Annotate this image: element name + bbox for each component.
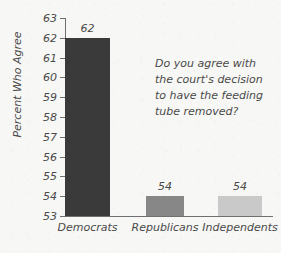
bar-value-republicans: 54 (135, 180, 195, 193)
y-tick-label: 62 (21, 33, 57, 44)
category-label-democrats: Democrats (45, 221, 131, 234)
annotation-line-4: tube removed? (155, 104, 279, 120)
bar-value-democrats: 62 (58, 22, 118, 35)
y-tick-label: 59 (21, 92, 57, 103)
annotation-line-1: Do you agree with (155, 56, 279, 72)
survey-question-annotation: Do you agree withthe court's decisionto … (155, 56, 279, 120)
y-tick-label: 57 (21, 132, 57, 143)
x-axis-line (65, 216, 273, 217)
y-tick-label: 60 (21, 72, 57, 83)
bar-republicans[interactable] (146, 196, 184, 216)
y-tick-label: 63 (21, 13, 57, 24)
bar-democrats[interactable] (65, 38, 110, 216)
bar-independents[interactable] (218, 196, 262, 216)
y-tick-mark (60, 216, 65, 217)
annotation-line-3: to have the feeding (155, 88, 279, 104)
y-tick-label: 55 (21, 171, 57, 182)
category-label-republicans: Republicans (122, 221, 208, 234)
bar-chart: Percent Who Agree 5354555657585960616263… (0, 0, 281, 253)
y-tick-label: 61 (21, 53, 57, 64)
y-tick-label: 58 (21, 112, 57, 123)
y-tick-label: 54 (21, 191, 57, 202)
category-label-independents: Independents (197, 221, 281, 234)
annotation-line-2: the court's decision (155, 72, 279, 88)
y-tick-label: 56 (21, 152, 57, 163)
bar-value-independents: 54 (210, 180, 270, 193)
